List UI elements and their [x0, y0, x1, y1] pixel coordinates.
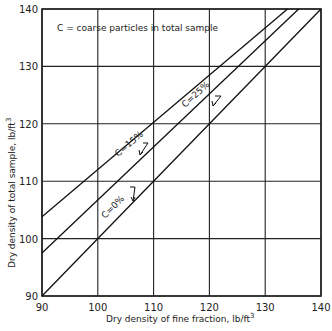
annotation: C = coarse particles in total sample	[57, 23, 218, 33]
y-tick-label: 90	[25, 291, 38, 302]
svg-text:C=25%: C=25%	[180, 79, 212, 109]
series-lines	[42, 9, 321, 296]
y-tick-labels: 90100110120130140	[19, 4, 38, 302]
y-tick-label: 110	[19, 176, 38, 187]
series-label-c25: C=25%	[180, 79, 212, 109]
chart: 90100110120130140 90100110120130140 C = …	[0, 0, 332, 331]
series-line-2	[42, 9, 288, 217]
x-tick-label: 140	[311, 302, 330, 313]
x-tick-label: 120	[200, 302, 219, 313]
y-tick-label: 120	[19, 119, 38, 130]
arrow-c25	[212, 96, 221, 106]
y-tick-label: 130	[19, 61, 38, 72]
svg-text:C=0%: C=0%	[99, 193, 126, 220]
y-axis-label: Dry density of total sample, lb/ft3	[5, 118, 17, 268]
x-tick-labels: 90100110120130140	[36, 302, 331, 313]
y-tick-label: 100	[19, 234, 38, 245]
x-tick-label: 110	[144, 302, 163, 313]
series-line-1	[42, 9, 299, 253]
x-tick-label: 90	[36, 302, 49, 313]
x-tick-label: 130	[256, 302, 275, 313]
y-tick-label: 140	[19, 4, 38, 15]
arrow-c0	[130, 187, 135, 201]
series-line-0	[42, 9, 321, 296]
series-label-c0: C=0%	[99, 193, 126, 220]
x-axis-label: Dry density of fine fraction, lb/ft3	[106, 312, 255, 324]
x-tick-label: 100	[88, 302, 107, 313]
